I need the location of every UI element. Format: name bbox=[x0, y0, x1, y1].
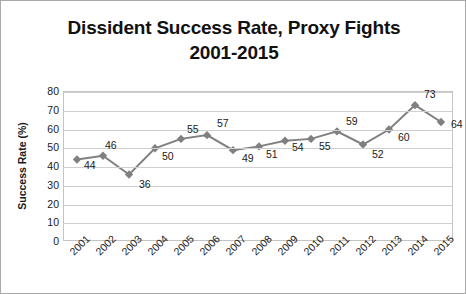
gridline bbox=[64, 167, 452, 168]
gridline bbox=[64, 130, 452, 131]
gridline bbox=[64, 186, 452, 187]
data-point-marker[interactable] bbox=[73, 155, 81, 163]
data-point-marker[interactable] bbox=[333, 127, 341, 135]
data-point-label: 50 bbox=[162, 151, 174, 162]
chart-title: Dissident Success Rate, Proxy Fights 200… bbox=[1, 15, 466, 65]
y-tick-label: 0 bbox=[31, 235, 59, 247]
y-axis-title-text: Success Rate (%) bbox=[16, 122, 28, 210]
data-point-label: 49 bbox=[242, 153, 254, 164]
data-point-label: 60 bbox=[398, 132, 410, 143]
data-point-marker[interactable] bbox=[229, 146, 237, 154]
data-point-label: 52 bbox=[372, 149, 384, 160]
chart-title-line-2: 2001-2015 bbox=[1, 40, 466, 65]
y-tick-label: 80 bbox=[31, 85, 59, 97]
gridline bbox=[64, 148, 452, 149]
y-axis-title: Success Rate (%) bbox=[14, 111, 30, 221]
gridline bbox=[64, 92, 452, 93]
data-point-label: 55 bbox=[319, 141, 331, 152]
data-point-label: 73 bbox=[424, 89, 436, 100]
y-tick-label: 60 bbox=[31, 123, 59, 135]
y-tick-label: 70 bbox=[31, 104, 59, 116]
data-point-marker[interactable] bbox=[307, 135, 315, 143]
chart-container: Dissident Success Rate, Proxy Fights 200… bbox=[0, 0, 466, 294]
data-point-label: 64 bbox=[451, 119, 463, 130]
data-point-marker[interactable] bbox=[255, 142, 263, 150]
plot-area: 444636505557495154555952607364 bbox=[63, 91, 453, 241]
data-point-label: 51 bbox=[266, 149, 278, 160]
x-axis-tick-labels: 2001200220032004200520062007200820092010… bbox=[63, 243, 453, 291]
data-point-label: 44 bbox=[84, 160, 96, 171]
series-line bbox=[77, 105, 441, 174]
data-point-marker[interactable] bbox=[177, 135, 185, 143]
y-tick-label: 40 bbox=[31, 160, 59, 172]
y-tick-label: 30 bbox=[31, 179, 59, 191]
data-point-label: 57 bbox=[217, 118, 229, 129]
y-axis-tick-labels: 80706050403020100 bbox=[31, 85, 59, 245]
gridline bbox=[64, 205, 452, 206]
gridline bbox=[64, 223, 452, 224]
data-point-label: 55 bbox=[187, 124, 199, 135]
data-point-marker[interactable] bbox=[203, 131, 211, 139]
y-tick-label: 20 bbox=[31, 198, 59, 210]
data-point-marker[interactable] bbox=[281, 137, 289, 145]
y-tick-label: 10 bbox=[31, 216, 59, 228]
data-point-label: 36 bbox=[139, 179, 151, 190]
y-tick-label: 50 bbox=[31, 141, 59, 153]
data-point-label: 46 bbox=[105, 140, 117, 151]
data-point-label: 54 bbox=[292, 142, 304, 153]
chart-title-line-1: Dissident Success Rate, Proxy Fights bbox=[1, 15, 466, 40]
data-point-label: 59 bbox=[346, 116, 358, 127]
gridline bbox=[64, 111, 452, 112]
